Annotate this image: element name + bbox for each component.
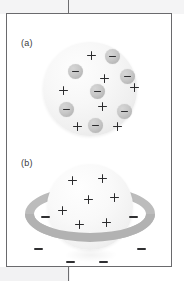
minus-sign-icon: [121, 111, 128, 113]
plus-sign-icon: [58, 206, 67, 215]
panel-b: (b): [7, 146, 171, 268]
plus-sign-icon: [130, 83, 139, 92]
minus-sign-icon: [63, 109, 70, 111]
plum-pudding-sphere: [43, 42, 137, 136]
minus-sign-icon: [124, 76, 131, 78]
panel-a: (a): [7, 14, 171, 146]
figure-frame: (a) (b): [6, 13, 172, 267]
saturnian-model: [25, 162, 155, 258]
figure-page: (a) (b): [0, 0, 184, 281]
plus-sign-icon: [100, 74, 109, 83]
saturn-shadow: [65, 248, 117, 262]
ring-electron-minus-icon: [137, 248, 146, 250]
minus-sign-icon: [94, 91, 101, 93]
electron-particle: [90, 84, 105, 99]
minus-sign-icon: [92, 125, 99, 127]
page-rule-top: [68, 0, 69, 14]
page-tint-top: [0, 0, 184, 14]
ring-electron-minus-icon: [129, 216, 138, 218]
electron-particle: [120, 69, 135, 84]
electron-particle: [68, 64, 83, 79]
plus-sign-icon: [102, 218, 111, 227]
plus-sign-icon: [84, 195, 93, 204]
minus-sign-icon: [109, 56, 116, 58]
plus-sign-icon: [98, 102, 107, 111]
ring-electron-minus-icon: [66, 261, 75, 263]
electron-particle: [105, 49, 120, 64]
plus-sign-icon: [110, 193, 119, 202]
page-rule-bottom: [68, 267, 69, 281]
plus-sign-icon: [98, 174, 107, 183]
electron-particle: [88, 118, 103, 133]
ring-electron-minus-icon: [41, 216, 50, 218]
plus-sign-icon: [87, 51, 96, 60]
plus-sign-icon: [73, 122, 82, 131]
electron-particle: [117, 104, 132, 119]
page-tint-bottom: [0, 267, 70, 281]
plus-sign-icon: [59, 86, 68, 95]
plus-sign-icon: [113, 122, 122, 131]
ring-electron-minus-icon: [99, 261, 108, 263]
ring-electron-minus-icon: [34, 248, 43, 250]
panel-a-label: (a): [21, 38, 33, 48]
plus-sign-icon: [68, 176, 77, 185]
plus-sign-icon: [75, 220, 84, 229]
electron-particle: [59, 102, 74, 117]
minus-sign-icon: [72, 71, 79, 73]
